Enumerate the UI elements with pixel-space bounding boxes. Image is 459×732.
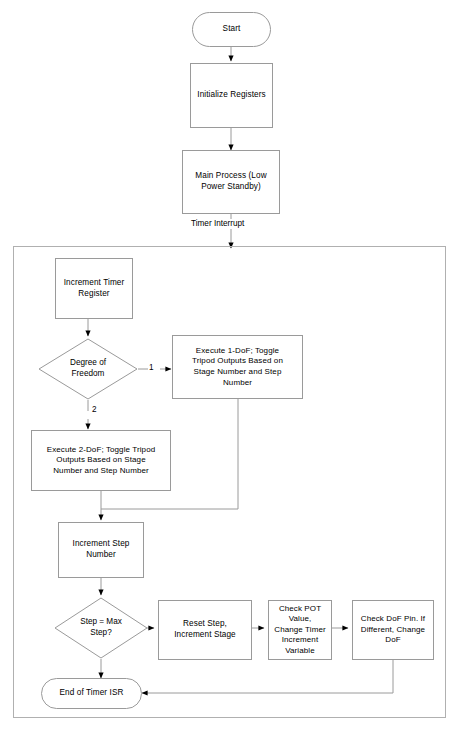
node-start[interactable]: Start bbox=[192, 12, 271, 47]
node-increment-step-number-label: Increment Step Number bbox=[73, 539, 130, 561]
node-check-dof-pin[interactable]: Check DoF Pin. If Different, Change DoF bbox=[352, 600, 434, 660]
node-start-label: Start bbox=[223, 24, 241, 35]
node-increment-timer-register[interactable]: Increment Timer Register bbox=[55, 258, 133, 319]
node-check-dof-pin-label: Check DoF Pin. If Different, Change DoF bbox=[361, 614, 425, 646]
edge-label-dof-2: 2 bbox=[91, 405, 98, 415]
node-execute-2dof[interactable]: Execute 2-DoF; Toggle Tripod Outputs Bas… bbox=[31, 430, 171, 491]
node-increment-step-number[interactable]: Increment Step Number bbox=[58, 522, 144, 578]
node-degree-of-freedom-label: Degree of Freedom bbox=[70, 358, 106, 380]
node-main-process-label: Main Process (Low Power Standby) bbox=[195, 171, 266, 193]
node-end-of-timer-isr[interactable]: End of Timer ISR bbox=[41, 678, 142, 709]
node-execute-1dof[interactable]: Execute 1-DoF; Toggle Tripod Outputs Bas… bbox=[172, 335, 303, 399]
node-reset-step-label: Reset Step, Increment Stage bbox=[174, 619, 236, 641]
node-initialize-registers[interactable]: Initialize Registers bbox=[190, 63, 273, 128]
flowchart-canvas: Start Initialize Registers Main Process … bbox=[0, 0, 459, 732]
edge-label-dof-1: 1 bbox=[148, 363, 155, 373]
node-execute-1dof-label: Execute 1-DoF; Toggle Tripod Outputs Bas… bbox=[192, 346, 283, 388]
node-end-of-timer-isr-label: End of Timer ISR bbox=[60, 688, 124, 699]
node-check-pot-value-label: Check POT Value, Change Timer Increment … bbox=[272, 604, 328, 657]
node-check-pot-value[interactable]: Check POT Value, Change Timer Increment … bbox=[268, 600, 332, 660]
node-increment-timer-register-label: Increment Timer Register bbox=[64, 278, 125, 300]
edge-label-timer-interrupt: Timer Interrupt bbox=[190, 219, 245, 229]
node-degree-of-freedom[interactable]: Degree of Freedom bbox=[38, 338, 138, 400]
node-main-process[interactable]: Main Process (Low Power Standby) bbox=[182, 150, 280, 214]
node-step-max-step-label: Step = Max Step? bbox=[80, 617, 122, 639]
node-execute-2dof-label: Execute 2-DoF; Toggle Tripod Outputs Bas… bbox=[47, 445, 156, 477]
node-reset-step[interactable]: Reset Step, Increment Stage bbox=[158, 600, 252, 660]
node-initialize-registers-label: Initialize Registers bbox=[197, 90, 265, 101]
node-step-max-step[interactable]: Step = Max Step? bbox=[54, 597, 148, 659]
